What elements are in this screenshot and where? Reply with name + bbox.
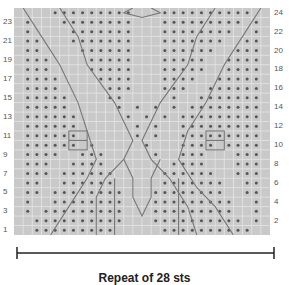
row-label: 6 xyxy=(274,179,278,187)
row-label: 24 xyxy=(274,9,283,17)
chart-svg xyxy=(14,8,270,235)
row-label: 19 xyxy=(3,56,12,64)
row-label: 3 xyxy=(3,207,7,215)
row-label: 22 xyxy=(274,28,283,36)
row-label: 1 xyxy=(3,226,7,234)
row-label: 23 xyxy=(3,18,12,26)
repeat-bracket xyxy=(16,247,275,259)
row-label: 15 xyxy=(3,94,12,102)
row-label: 5 xyxy=(3,188,7,196)
row-label: 4 xyxy=(274,198,278,206)
row-label: 21 xyxy=(3,37,12,45)
row-label: 13 xyxy=(3,113,12,121)
row-label: 8 xyxy=(274,160,278,168)
row-label: 18 xyxy=(274,65,283,73)
repeat-label: Repeat of 28 sts xyxy=(0,272,289,284)
row-label: 7 xyxy=(3,170,7,178)
row-label: 14 xyxy=(274,103,283,111)
knitting-chart-grid xyxy=(14,8,270,235)
row-label: 11 xyxy=(3,132,11,140)
row-label: 2 xyxy=(274,217,278,225)
row-label: 12 xyxy=(274,122,283,130)
row-label: 17 xyxy=(3,75,12,83)
row-label: 16 xyxy=(274,84,283,92)
row-label: 20 xyxy=(274,47,283,55)
row-label: 9 xyxy=(3,151,7,159)
row-label: 10 xyxy=(274,141,283,149)
